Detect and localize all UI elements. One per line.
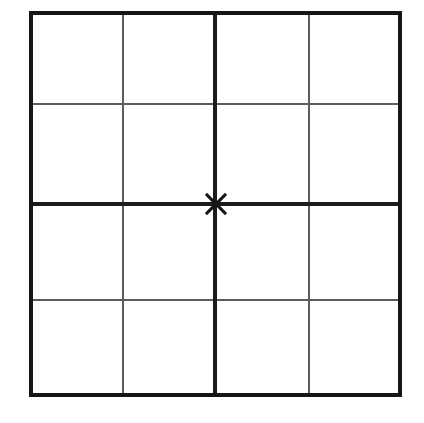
grid-svg (0, 0, 424, 423)
background-rect (0, 0, 424, 423)
grid-diagram-canvas: Four-by-four grid with center cross mark… (0, 0, 424, 423)
